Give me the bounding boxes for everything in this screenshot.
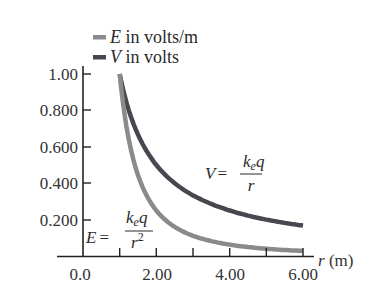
svg-text:r2: r2 — [131, 230, 144, 252]
legend-label-v: V in volts — [110, 47, 179, 67]
chart-canvas: 1.00 0.800 0.600 0.400 0.200 0.0 2.00 4.… — [0, 0, 391, 294]
svg-text:E=: E= — [85, 228, 109, 247]
x-tick-label-0: 0.0 — [69, 265, 90, 284]
legend-swatch-v — [93, 55, 106, 60]
svg-text:keq: keq — [126, 208, 148, 229]
legend: E in volts/m V in volts — [93, 27, 198, 67]
svg-text:V=: V= — [205, 164, 227, 183]
svg-text:r: r — [248, 176, 255, 195]
y-tick-label-0-6: 0.600 — [40, 138, 78, 157]
svg-text:keq: keq — [243, 152, 265, 173]
x-axis-label: r (m) — [318, 251, 353, 270]
y-tick-label-0-4: 0.400 — [40, 174, 78, 193]
legend-label-e: E in volts/m — [109, 27, 198, 47]
y-ticks — [83, 74, 91, 220]
x-tick-label-2: 2.00 — [142, 265, 172, 284]
y-tick-label-0-2: 0.200 — [40, 211, 78, 230]
y-tick-label-1: 1.00 — [48, 65, 78, 84]
legend-swatch-e — [93, 35, 106, 40]
v-curve — [120, 74, 303, 226]
y-tick-label-0-8: 0.800 — [40, 101, 78, 120]
e-equation-annotation: E= keq r2 — [85, 208, 153, 252]
x-tick-label-6: 6.00 — [288, 265, 318, 284]
x-tick-label-4: 4.00 — [215, 265, 245, 284]
v-equation-annotation: V= keq r — [205, 152, 265, 195]
